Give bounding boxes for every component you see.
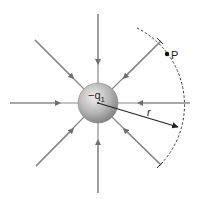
field-line-upper-left-arrow bbox=[35, 40, 72, 77]
charge-center-dot bbox=[97, 102, 99, 104]
radius-label: r bbox=[147, 106, 152, 118]
field-line-lower-left-arrow bbox=[36, 130, 72, 166]
point-p-label: P bbox=[171, 49, 178, 61]
diagram-canvas: −q1 P r bbox=[0, 0, 203, 199]
field-diagram: −q1 P r bbox=[0, 0, 203, 199]
field-line-lower-right-arrow bbox=[125, 130, 161, 165]
field-line-upper-right-arrow bbox=[125, 41, 161, 77]
point-p-marker bbox=[165, 52, 169, 56]
